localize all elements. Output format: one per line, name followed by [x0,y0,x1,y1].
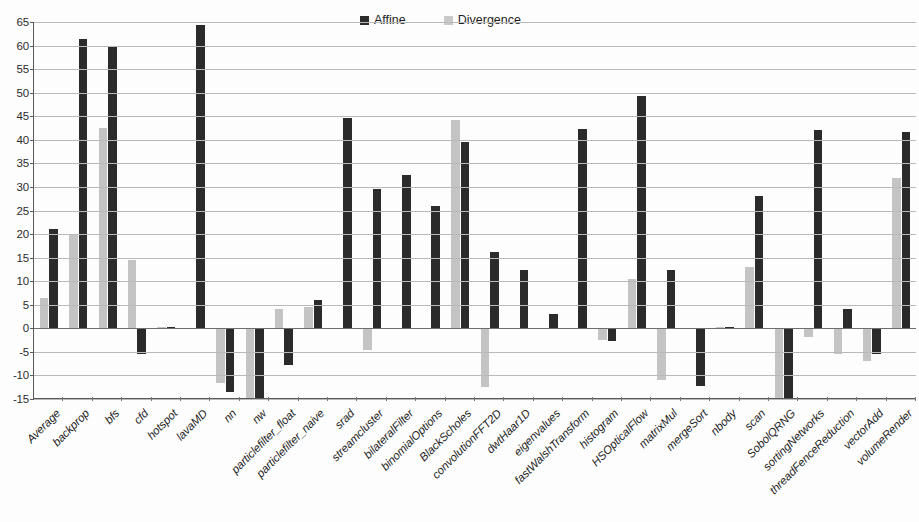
x-tick-mark-29 [915,397,916,401]
x-axis-labels: AveragebackpropbfscfdhotspotlavaMDnnnwpa… [33,401,916,522]
y-tick-mark-50 [30,93,34,94]
gridline--5 [34,352,916,353]
x-tick-mark-12 [415,397,416,401]
x-tick-mark-14 [474,397,475,401]
y-tick-mark--10 [30,375,34,376]
gridline-0 [34,328,916,329]
x-axis-label-nn: nn [221,407,238,424]
y-tick-label--10: -10 [13,369,29,381]
x-axis-label-cfd: cfd [131,407,150,426]
y-tick-mark-20 [30,234,34,235]
x-tick-mark-26 [827,397,828,401]
gridline--10 [34,375,916,376]
bar-affine-volumeRender [902,132,911,329]
bar-divergence-threadFenceReduction [834,328,843,354]
bar-affine-srad [343,118,352,329]
gridline-55 [34,69,916,70]
y-tick-label--5: -5 [19,346,29,358]
bar-affine-nw [255,328,264,398]
bar-divergence-convolutionFFT2D [481,328,490,387]
y-tick-label-65: 65 [17,16,29,28]
x-axis-label-hotspot: hotspot [145,407,180,442]
x-tick-mark-27 [856,397,857,401]
x-tick-mark-23 [739,397,740,401]
x-axis-label-nbody: nbody [708,407,738,437]
x-axis-label-nw: nw [249,407,268,426]
bar-affine-fastWalshTransform [578,129,587,329]
bar-affine-cfd [137,328,146,354]
gridline-10 [34,281,916,282]
bar-divergence-matrixMul [657,328,666,380]
y-tick-mark-45 [30,116,34,117]
y-tick-mark-0 [30,328,34,329]
x-tick-mark-15 [503,397,504,401]
bar-affine-matrixMul [667,270,676,328]
y-tick-mark-25 [30,211,34,212]
y-tick-label-40: 40 [17,134,29,146]
bar-divergence-histogram [598,328,607,340]
y-tick-label-30: 30 [17,181,29,193]
gridline--15 [34,399,916,400]
x-tick-mark-24 [768,397,769,401]
bar-affine-histogram [608,328,617,341]
y-tick-label-0: 0 [23,322,29,334]
x-tick-mark-6 [239,397,240,401]
x-axis-label-lavaMD: lavaMD [174,407,210,443]
x-tick-mark-17 [562,397,563,401]
bar-divergence-vectorAdd [863,328,872,361]
bar-divergence-SobolQRNG [775,328,784,398]
bar-affine-binomialOptions [431,206,440,328]
y-tick-mark-30 [30,187,34,188]
gridline-45 [34,116,916,117]
x-tick-mark-1 [92,397,93,401]
y-tick-label--15: -15 [13,393,29,405]
bar-affine-backprop [79,39,88,328]
y-tick-mark-55 [30,69,34,70]
bar-divergence-bfs [99,128,108,328]
y-tick-label-55: 55 [17,63,29,75]
y-tick-label-35: 35 [17,157,29,169]
bar-affine-SobolQRNG [784,328,793,398]
bar-affine-convolutionFFT2D [490,252,499,328]
y-tick-mark-15 [30,258,34,259]
gridline-30 [34,187,916,188]
bar-affine-lavaMD [196,25,205,328]
x-tick-mark-28 [886,397,887,401]
y-tick-mark-40 [30,140,34,141]
bar-divergence-streamcluster [363,328,372,349]
x-axis-label-scan: scan [742,407,767,432]
y-tick-mark--5 [30,352,34,353]
x-tick-mark-25 [797,397,798,401]
bar-chart: Affine Divergence 6560555045403530252015… [0,0,919,522]
x-tick-mark-13 [445,397,446,401]
x-tick-mark-2 [121,397,122,401]
bar-affine-threadFenceReduction [843,309,852,328]
y-tick-mark-5 [30,305,34,306]
x-tick-mark-4 [180,397,181,401]
x-axis-label-srad: srad [332,407,356,431]
bar-affine-particlefilter_float [284,328,293,365]
bar-divergence-nn [216,328,225,382]
x-tick-mark-11 [386,397,387,401]
y-tick-label-45: 45 [17,110,29,122]
bar-affine-BlackScholes [461,142,470,328]
y-tick-mark-60 [30,46,34,47]
gridline-50 [34,93,916,94]
gridline-65 [34,22,916,23]
bar-divergence-BlackScholes [451,120,460,329]
bar-divergence-particlefilter_naive [304,307,313,328]
x-tick-mark-5 [209,397,210,401]
bar-divergence-nw [246,328,255,398]
bar-affine-Average [49,229,58,328]
bar-affine-dwtHaar1D [520,270,529,328]
gridline-5 [34,305,916,306]
x-tick-mark-22 [709,397,710,401]
plot-area: 65605550454035302520151050-5-10-15 [33,22,916,399]
bar-divergence-HSOpticalFlow [628,279,637,328]
bar-divergence-particlefilter_float [275,309,284,328]
bar-divergence-scan [745,267,754,328]
y-tick-mark-35 [30,163,34,164]
x-tick-mark-16 [533,397,534,401]
x-tick-mark-3 [151,397,152,401]
x-tick-mark-9 [327,397,328,401]
